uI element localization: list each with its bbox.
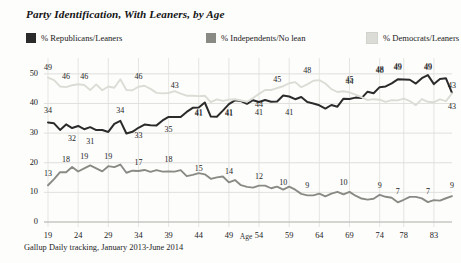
x-axis-tick-64: 64 — [309, 231, 329, 240]
x-axis-tick-44: 44 — [189, 231, 209, 240]
x-axis-tick-24: 24 — [68, 231, 88, 240]
data-label-republicans-31: 34 — [112, 106, 128, 115]
data-label-democrats-69: 45 — [341, 75, 357, 84]
y-axis-tick-30: 30 — [22, 128, 38, 137]
data-label-independents-68: 10 — [335, 178, 351, 187]
data-label-democrats-62: 48 — [299, 66, 315, 75]
data-label-democrats-49: 41 — [221, 109, 237, 118]
data-label-democrats-57: 45 — [269, 75, 285, 84]
y-axis-tick-50: 50 — [22, 69, 38, 78]
data-label-independents-82: 7 — [420, 187, 436, 196]
data-label-republicans-26: 31 — [82, 137, 98, 146]
data-label-democrats-77: 49 — [390, 63, 406, 72]
chart-frame: Party Identification, With Leaners, by A… — [0, 0, 461, 263]
data-label-democrats-34: 46 — [130, 72, 146, 81]
y-axis-tick-40: 40 — [22, 98, 38, 107]
data-label-democrats-19: 49 — [40, 63, 56, 72]
data-label-republicans-59: 41 — [281, 108, 297, 117]
data-label-republicans-19: 34 — [40, 106, 56, 115]
x-axis-title: Age — [231, 232, 261, 241]
y-axis-tick-20: 20 — [22, 158, 38, 167]
data-label-democrats-74: 48 — [372, 66, 388, 75]
data-label-democrats-25: 46 — [76, 72, 92, 81]
x-axis-tick-29: 29 — [98, 231, 118, 240]
data-label-independents-39: 18 — [161, 155, 177, 164]
data-label-independents-25: 19 — [76, 152, 92, 161]
data-label-independents-86: 9 — [444, 181, 460, 190]
x-axis-tick-19: 19 — [38, 231, 58, 240]
x-axis-tick-39: 39 — [159, 231, 179, 240]
data-label-democrats-22: 46 — [58, 72, 74, 81]
data-label-republicans-39: 35 — [161, 125, 177, 134]
source-note: Gallup Daily tracking, January 2013-June… — [24, 243, 183, 252]
x-axis-tick-74: 74 — [370, 231, 390, 240]
data-label-democrats-40: 43 — [167, 81, 183, 90]
data-label-independents-29: 19 — [100, 152, 116, 161]
x-axis-tick-34: 34 — [128, 231, 148, 240]
x-axis-tick-59: 59 — [279, 231, 299, 240]
data-label-republicans-23: 32 — [64, 134, 80, 143]
data-label-independents-19: 13 — [40, 169, 56, 178]
data-label-independents-58: 10 — [275, 178, 291, 187]
plot-area: 0102030405019242934394449545964697478833… — [0, 0, 461, 263]
data-label-republicans-86: 43 — [444, 102, 460, 111]
data-label-democrats-54: 44 — [251, 100, 267, 109]
data-label-democrats-44: 41 — [191, 109, 207, 118]
data-label-democrats-82: 49 — [420, 63, 436, 72]
x-axis-tick-69: 69 — [339, 231, 359, 240]
data-label-republicans-54: 41 — [251, 108, 267, 117]
x-axis-tick-78: 78 — [394, 231, 414, 240]
data-label-independents-44: 15 — [191, 164, 207, 173]
data-label-republicans-34: 33 — [130, 131, 146, 140]
data-label-independents-49: 14 — [221, 167, 237, 176]
line-chart-svg — [0, 0, 461, 263]
data-label-independents-77: 7 — [390, 187, 406, 196]
data-label-democrats-86: 43 — [444, 81, 460, 90]
y-axis-tick-10: 10 — [22, 187, 38, 196]
y-axis-tick-0: 0 — [22, 217, 38, 226]
data-label-independents-62: 9 — [299, 181, 315, 190]
data-label-independents-54: 12 — [251, 172, 267, 181]
data-label-independents-34: 17 — [130, 158, 146, 167]
data-label-independents-22: 18 — [58, 155, 74, 164]
data-label-independents-74: 9 — [372, 181, 388, 190]
x-axis-tick-83: 83 — [424, 231, 444, 240]
